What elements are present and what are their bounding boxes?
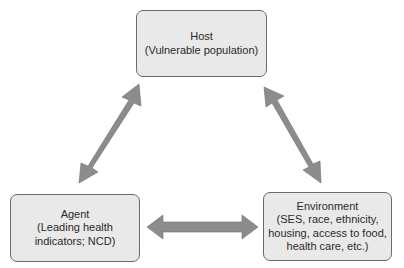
environment-detail-line: (SES, race, ethnicity, xyxy=(277,213,379,227)
agent-environment-arrow xyxy=(147,215,258,239)
host-environment-arrow xyxy=(264,87,321,183)
agent-detail-line: indicators; NCD) xyxy=(35,235,116,249)
host-title: Host xyxy=(190,30,213,44)
agent-node: Agent (Leading health indicators; NCD) xyxy=(10,194,140,262)
environment-node: Environment (SES, race, ethnicity, housi… xyxy=(263,192,392,261)
host-agent-arrow xyxy=(79,84,141,183)
agent-detail-line: (Leading health xyxy=(37,221,113,235)
host-detail-line: (Vulnerable population) xyxy=(145,44,258,58)
environment-title: Environment xyxy=(297,200,359,214)
environment-detail-line: housing, access to food, xyxy=(268,227,387,241)
environment-detail-line: health care, etc.) xyxy=(287,240,369,254)
host-node: Host (Vulnerable population) xyxy=(136,10,267,77)
agent-title: Agent xyxy=(61,208,90,222)
